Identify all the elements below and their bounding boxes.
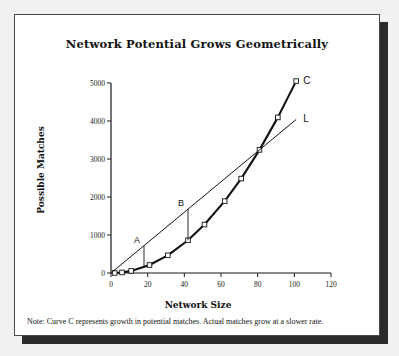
data-point-marker <box>147 263 152 268</box>
data-point-marker <box>202 222 207 227</box>
chart-axes <box>111 83 331 273</box>
x-tick-label: 0 <box>109 280 113 289</box>
series-label-l: L <box>303 113 309 124</box>
series-line-c <box>115 81 297 273</box>
data-point-marker <box>120 270 125 275</box>
plot-area: 020406080100120010002000300040005000CLAB <box>15 15 381 337</box>
chart-card: Network Potential Grows Geometrically Po… <box>14 14 380 336</box>
annotation-label-a: A <box>134 235 140 245</box>
x-tick-label: 80 <box>254 280 262 289</box>
y-tick-label: 2000 <box>90 193 105 202</box>
y-tick-label: 3000 <box>90 155 105 164</box>
data-point-marker <box>222 199 227 204</box>
y-tick-label: 5000 <box>90 79 105 88</box>
data-point-marker <box>129 269 134 274</box>
x-tick-label: 100 <box>289 280 301 289</box>
data-point-marker <box>239 176 244 181</box>
y-tick-label: 0 <box>101 269 105 278</box>
x-tick-label: 20 <box>144 280 152 289</box>
data-point-marker <box>276 115 281 120</box>
y-tick-label: 4000 <box>90 117 105 126</box>
x-tick-label: 120 <box>325 280 337 289</box>
y-tick-label: 1000 <box>90 231 105 240</box>
series-line-l <box>111 119 296 273</box>
annotation-label-b: B <box>178 198 184 208</box>
chart-note: Note: Curve C represents growth in poten… <box>27 317 371 326</box>
series-label-c: C <box>303 75 310 86</box>
x-tick-label: 60 <box>217 280 225 289</box>
data-point-marker <box>166 253 171 258</box>
data-point-marker <box>294 79 299 84</box>
x-tick-label: 40 <box>181 280 189 289</box>
chart-svg: 020406080100120010002000300040005000CLAB <box>15 15 381 337</box>
